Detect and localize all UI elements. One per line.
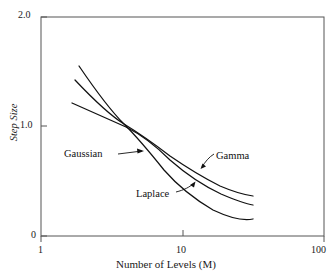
- x-tick-label-right: 100: [311, 244, 326, 255]
- chart-figure: 2.0 1.0 0 1 10 100 Number of Levels (M) …: [0, 0, 332, 277]
- y-tick-label-top: 2.0: [18, 9, 31, 20]
- arrowhead-gaussian: [137, 149, 144, 154]
- arrowhead-laplace: [190, 182, 196, 188]
- curve-label-gamma: Gamma: [216, 150, 249, 161]
- curve-label-laplace: Laplace: [136, 188, 169, 199]
- plot-area: [0, 0, 332, 277]
- x-tick-label-left: 1: [38, 244, 43, 255]
- x-tick-label-mid: 10: [176, 244, 186, 255]
- arrowhead-gamma: [201, 164, 207, 170]
- y-axis-title: Step Size: [8, 88, 19, 158]
- y-tick-label-mid: 1.0: [20, 119, 33, 130]
- curve-label-gaussian: Gaussian: [64, 148, 103, 159]
- y-tick-label-bottom: 0: [31, 229, 36, 240]
- x-axis-title: Number of Levels (M): [0, 258, 332, 270]
- plot-frame: [41, 17, 324, 236]
